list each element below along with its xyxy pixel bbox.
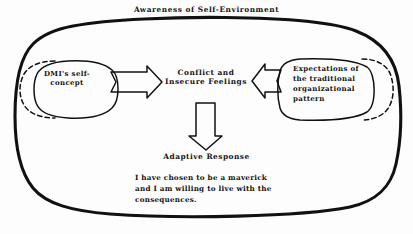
center-node-label: Conflict and Insecure Feelings (148, 68, 264, 86)
adaptive-response-label: Adaptive Response (0, 152, 413, 161)
page-title: Awareness of Self-Environment (0, 5, 413, 14)
arrow-center-to-response (189, 103, 222, 150)
statement-text: I have chosen to be a maverick and I am … (135, 172, 325, 205)
left-node-label: DMI's self- concept (30, 70, 104, 87)
diagram-canvas: Awareness of Self-Environment DMI's self… (0, 0, 413, 234)
right-node-label: Expectations of the traditional organiza… (293, 64, 373, 104)
